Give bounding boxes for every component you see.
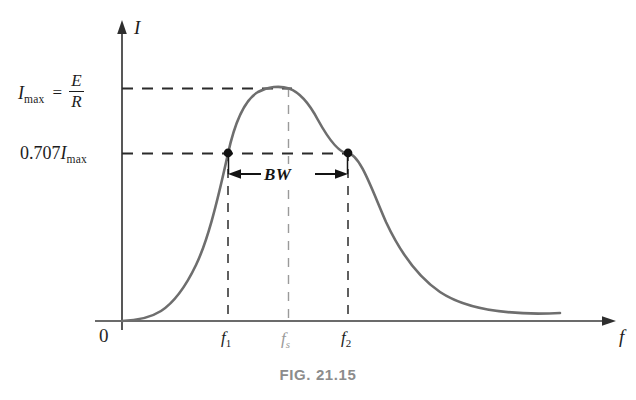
bandwidth-arrowhead-right: [335, 169, 348, 179]
resonance-plot-svg: [0, 0, 636, 400]
half-power-level-label: 0.707Imax: [20, 144, 87, 162]
resonance-figure: I f 0 Imax = E R 0.707Imax BW f1 fs f2 F…: [0, 0, 636, 400]
marker-f1: [224, 149, 233, 158]
tick-f2-subscript: 2: [346, 337, 352, 349]
resonance-curve: [122, 87, 560, 321]
half-power-coefficient: 0.707: [20, 143, 61, 163]
marker-f2: [344, 149, 353, 158]
imax-subscript: max: [24, 93, 44, 105]
figure-caption: FIG. 21.15: [0, 366, 636, 383]
imax-variable: Imax: [18, 84, 44, 102]
imax-formula-label: Imax = E R: [18, 73, 84, 112]
frequency-lines-group: [228, 88, 348, 321]
tick-label-fs: fs: [281, 330, 290, 347]
x-axis-label: f: [619, 327, 624, 346]
bandwidth-arrowhead-left: [228, 169, 241, 179]
axes-group: [95, 20, 616, 330]
tick-f1-subscript: 1: [226, 337, 232, 349]
half-power-variable: I: [61, 143, 67, 163]
tick-label-f2: f2: [341, 329, 351, 346]
bandwidth-label: BW: [264, 166, 291, 183]
tick-fs-subscript: s: [286, 338, 290, 350]
fraction-numerator: E: [69, 72, 83, 91]
x-axis-arrowhead: [602, 316, 616, 326]
fraction-denominator: R: [69, 92, 83, 111]
y-axis-arrowhead: [117, 20, 127, 34]
equals-sign: =: [52, 84, 62, 101]
y-axis-label: I: [134, 18, 140, 37]
half-power-subscript: max: [67, 153, 87, 165]
origin-label: 0: [99, 326, 109, 345]
e-over-r-fraction: E R: [69, 72, 84, 111]
tick-label-f1: f1: [221, 329, 231, 346]
